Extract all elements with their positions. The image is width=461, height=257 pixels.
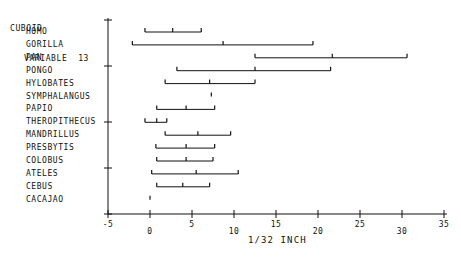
- range-row-cebus: [157, 183, 210, 187]
- range-row-ateles: [152, 170, 239, 174]
- axes-group: [104, 18, 447, 218]
- range-plot-figure: CUBOID VARIABLE 13 HOMOGORILLAPANPONGOHY…: [0, 0, 461, 257]
- plot-canvas: [0, 0, 461, 257]
- range-row-colobus: [157, 157, 213, 161]
- range-row-theropithecus: [145, 118, 167, 122]
- range-row-homo: [145, 28, 201, 32]
- range-row-pan: [255, 54, 407, 58]
- range-row-hylobates: [165, 80, 255, 84]
- range-row-papio: [157, 105, 215, 109]
- series-group: [132, 28, 407, 200]
- range-row-gorilla: [132, 41, 313, 45]
- range-row-mandrillus: [165, 131, 231, 135]
- range-row-pongo: [177, 67, 331, 71]
- range-row-presbytis: [156, 144, 215, 148]
